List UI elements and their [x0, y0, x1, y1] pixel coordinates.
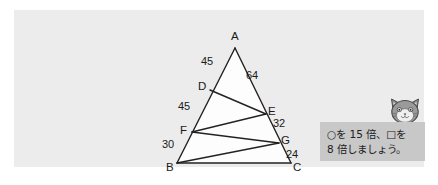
vertex-label-F: F [180, 125, 187, 136]
vertex-label-B: B [166, 162, 174, 173]
segment-label-EG: 32 [273, 118, 285, 129]
instruction-line-1: ○を 15 倍、□を [327, 127, 421, 142]
instruction-line-2: 8 倍しましょう。 [327, 142, 421, 157]
segment-label-GC: 24 [286, 149, 298, 160]
segment-label-AD: 45 [201, 56, 213, 67]
screenshot-root: A B C D E F G 45 64 45 32 30 24 [0, 0, 438, 185]
vertex-label-D: D [198, 81, 206, 92]
vertex-label-C: C [293, 162, 301, 173]
vertex-label-G: G [281, 135, 290, 146]
vertex-label-A: A [231, 31, 239, 42]
instruction-text: ○を 15 倍、□を 8 倍しましょう。 [327, 127, 421, 157]
vertex-label-E: E [268, 106, 276, 117]
segment-label-AE: 64 [246, 70, 258, 81]
geometry-figure: A B C D E F G 45 64 45 32 30 24 [14, 10, 324, 167]
figure-panel: A B C D E F G 45 64 45 32 30 24 [14, 10, 424, 167]
segment-label-FB: 30 [162, 139, 174, 150]
segment-label-DF: 45 [178, 101, 190, 112]
instruction-callout: ○を 15 倍、□を 8 倍しましょう。 [320, 122, 425, 161]
